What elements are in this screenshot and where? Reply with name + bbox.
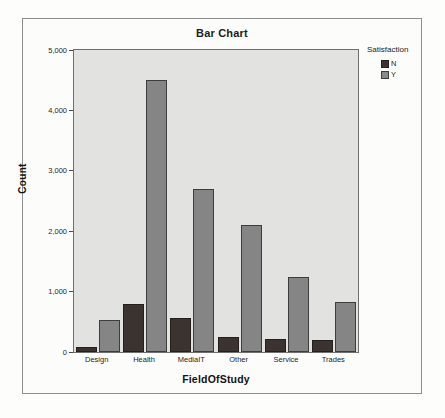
y-axis-tick-label: 4,000 <box>48 105 67 114</box>
bar[interactable] <box>76 347 97 352</box>
legend-swatch-icon <box>381 71 389 79</box>
bar[interactable] <box>288 277 309 352</box>
legend-item-y[interactable]: Y <box>381 71 437 79</box>
bar[interactable] <box>146 80 167 352</box>
legend-entries: NY <box>367 60 437 79</box>
y-axis-tick-mark <box>69 110 73 111</box>
bar[interactable] <box>170 318 191 352</box>
chart-title: Bar Chart <box>23 27 421 39</box>
chart-frame: Bar Chart 01,0002,0003,0004,0005,000 Cou… <box>22 18 422 394</box>
y-axis-tick-label: 2,000 <box>48 226 67 235</box>
y-axis-tick-mark <box>69 50 73 51</box>
legend-swatch-icon <box>381 60 389 68</box>
legend-item-n[interactable]: N <box>381 60 437 68</box>
bar[interactable] <box>123 304 144 352</box>
x-axis-tick-label: Design <box>73 355 120 364</box>
bar[interactable] <box>312 340 333 352</box>
x-axis-tick-label: Trades <box>310 355 357 364</box>
bar-group <box>216 50 263 352</box>
bar-group <box>311 50 358 352</box>
legend-item-label: N <box>391 60 396 68</box>
y-axis-title: Count <box>17 163 28 193</box>
y-axis-tick-label: 1,000 <box>48 287 67 296</box>
bar[interactable] <box>241 225 262 352</box>
y-axis-tick-mark <box>69 352 73 353</box>
x-axis-tick-label: Other <box>215 355 262 364</box>
y-axis-tick-mark <box>69 291 73 292</box>
bar[interactable] <box>218 337 239 352</box>
bar-group <box>121 50 168 352</box>
bar-group <box>263 50 310 352</box>
x-axis-tick-label: Health <box>120 355 167 364</box>
y-axis-tick-label: 0 <box>63 347 67 356</box>
bar[interactable] <box>99 320 120 352</box>
bar[interactable] <box>335 302 356 352</box>
y-axis-tick-label: 3,000 <box>48 166 67 175</box>
legend-item-label: Y <box>391 71 396 79</box>
x-axis-tick-label: Service <box>262 355 309 364</box>
x-axis-tick-label: MediaIT <box>168 355 215 364</box>
bar[interactable] <box>265 339 286 352</box>
y-axis-tick-mark <box>69 231 73 232</box>
bar[interactable] <box>193 189 214 352</box>
legend: Satisfaction NY <box>367 45 437 82</box>
bars-layer <box>74 50 358 352</box>
x-axis: DesignHealthMediaITOtherServiceTrades <box>73 355 359 371</box>
x-axis-title: FieldOfStudy <box>73 373 359 385</box>
y-axis: 01,0002,0003,0004,0005,000 <box>23 49 73 353</box>
bar-group <box>169 50 216 352</box>
legend-title: Satisfaction <box>367 45 437 54</box>
y-axis-tick-mark <box>69 170 73 171</box>
y-axis-tick-label: 5,000 <box>48 45 67 54</box>
bar-group <box>74 50 121 352</box>
